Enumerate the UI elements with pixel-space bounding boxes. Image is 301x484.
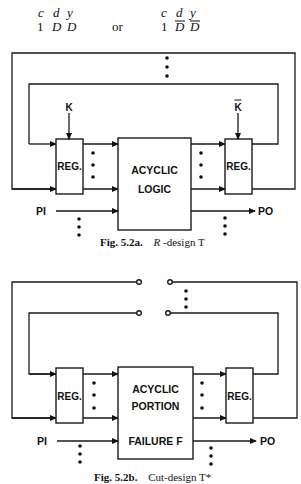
- figure-caption: Fig. 5.2b. Cut-design T*: [94, 471, 211, 483]
- inner-feedback-wire: [29, 84, 278, 144]
- caption-prefix: Fig. 5.2b.: [94, 471, 138, 483]
- header-expression-right: c d y 1 D D: [161, 5, 200, 34]
- caption-prefix: Fig. 5.2a.: [100, 236, 143, 248]
- ellipsis-dot: [209, 454, 213, 458]
- clock-k-bar-label: K: [234, 102, 242, 113]
- register-right-label: REG.: [226, 161, 251, 172]
- figure-5-2b: REG. ACYCLIC PORTION FAILURE F REG. PI P…: [12, 280, 297, 483]
- var-c: c: [38, 5, 44, 20]
- value-y: D: [66, 19, 77, 34]
- ellipsis-dot: [77, 225, 81, 229]
- register-right-label: REG.: [227, 391, 252, 402]
- cut-terminal: [137, 311, 142, 316]
- ellipsis-dot: [92, 381, 96, 385]
- ellipsis-dot: [200, 406, 204, 410]
- ellipsis-dot: [78, 444, 82, 448]
- ellipsis-dot: [165, 65, 169, 69]
- primary-output-label: PO: [258, 205, 273, 217]
- value-1: 1: [161, 19, 168, 34]
- value-d: D: [51, 19, 62, 34]
- ellipsis-dot: [91, 175, 95, 179]
- ellipsis-dot: [209, 446, 213, 450]
- ellipsis-dot: [223, 232, 227, 236]
- clock-k-label: K: [65, 102, 73, 113]
- cut-terminal: [168, 280, 173, 285]
- var-d: d: [176, 5, 183, 20]
- ellipsis-dot: [77, 233, 81, 237]
- ellipsis-dot: [91, 163, 95, 167]
- ellipsis-dot: [199, 175, 203, 179]
- ellipsis-dot: [165, 56, 169, 60]
- figure-canvas: c d y 1 D D or c d y 1 D D REG. K: [0, 0, 301, 484]
- caption-italic: R: [153, 236, 161, 248]
- ellipsis-dot: [91, 151, 95, 155]
- ellipsis-dot: [223, 224, 227, 228]
- cut-terminal: [166, 311, 171, 316]
- ellipsis-dot: [184, 297, 188, 301]
- primary-output-label: PO: [260, 435, 275, 447]
- register-left-label: REG.: [57, 161, 82, 172]
- var-d: d: [53, 5, 60, 20]
- var-c: c: [161, 5, 167, 20]
- caption-text: -design T: [163, 236, 205, 248]
- primary-input-label: PI: [37, 435, 47, 447]
- header-expression-left: c d y 1 D D: [37, 5, 77, 34]
- logic-label-line1: ACYCLIC: [131, 164, 178, 176]
- inner-cut-wire-right: [170, 313, 278, 374]
- ellipsis-dot: [223, 216, 227, 220]
- figure-caption: Fig. 5.2a. R -design T: [100, 236, 205, 248]
- var-y: y: [65, 5, 73, 20]
- caption-text: Cut-design T*: [148, 471, 211, 483]
- cut-terminal: [137, 280, 142, 285]
- ellipsis-dot: [92, 393, 96, 397]
- var-y: y: [188, 5, 196, 20]
- ellipsis-dot: [209, 462, 213, 466]
- value-1: 1: [37, 19, 44, 34]
- ellipsis-dot: [77, 217, 81, 221]
- figure-5-2a: REG. K ACYCLIC LOGIC REG. K PI PO: [12, 53, 295, 248]
- portion-label-line1: ACYCLIC: [132, 383, 179, 395]
- ellipsis-dot: [200, 393, 204, 397]
- ellipsis-dot: [78, 452, 82, 456]
- ellipsis-dot: [165, 74, 169, 78]
- failure-label: FAILURE F: [128, 435, 183, 447]
- inner-cut-wire-left: [29, 313, 137, 374]
- ellipsis-dot: [184, 289, 188, 293]
- logic-label-line2: LOGIC: [138, 183, 172, 195]
- primary-input-label: PI: [36, 205, 46, 217]
- register-left-label: REG.: [57, 391, 82, 402]
- ellipsis-dot: [200, 381, 204, 385]
- ellipsis-dot: [184, 305, 188, 309]
- or-connector: or: [112, 19, 124, 34]
- ellipsis-dot: [199, 163, 203, 167]
- ellipsis-dot: [78, 460, 82, 464]
- ellipsis-dot: [199, 151, 203, 155]
- portion-label-line2: PORTION: [132, 400, 180, 412]
- ellipsis-dot: [92, 406, 96, 410]
